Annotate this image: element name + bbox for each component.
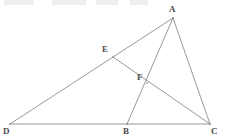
top-text-artifact: ·····: [52, 0, 86, 5]
geometry-figure: AEFDBC ·· ·············: [0, 0, 226, 139]
segment-d-a: [10, 18, 173, 124]
top-text-artifact-glyphs: ··: [130, 0, 148, 3]
vertex-label-d: D: [3, 127, 10, 136]
top-text-artifact: ···: [96, 0, 118, 5]
vertex-point-e: [112, 56, 114, 58]
top-text-artifact-glyphs: ···: [96, 0, 118, 3]
vertex-point-a: [172, 17, 174, 19]
segment-a-c: [173, 18, 210, 124]
segments-group: [10, 18, 210, 124]
top-text-artifact-glyphs: ·····: [52, 0, 86, 3]
top-text-artifact-glyphs: ·· ···: [4, 0, 34, 3]
top-text-artifact: ··: [130, 0, 148, 5]
vertex-point-c: [209, 123, 211, 125]
vertex-label-a: A: [169, 5, 176, 14]
geometry-canvas: [0, 0, 226, 139]
vertex-label-f: F: [137, 73, 143, 82]
vertex-label-c: C: [211, 127, 218, 136]
vertex-label-b: B: [123, 127, 129, 136]
vertex-point-f: [146, 82, 148, 84]
vertex-point-b: [126, 123, 128, 125]
top-text-artifact: ·· ···: [4, 0, 34, 5]
segment-e-c: [113, 57, 210, 124]
vertices-group: [9, 17, 211, 125]
vertex-point-d: [9, 123, 11, 125]
vertex-label-e: E: [102, 45, 108, 54]
